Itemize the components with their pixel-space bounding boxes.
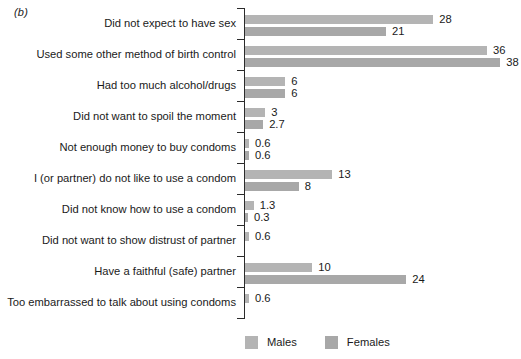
bar-value-label: 36 bbox=[493, 44, 505, 57]
bar-value-label: 21 bbox=[392, 25, 404, 38]
axis-tick bbox=[237, 225, 245, 226]
category-label: Too embarrassed to talk about using cond… bbox=[0, 296, 236, 309]
legend-item-females: Females bbox=[325, 336, 390, 349]
category-label: Used some other method of birth control bbox=[0, 48, 236, 61]
bar-males bbox=[245, 170, 332, 179]
legend-label-males: Males bbox=[267, 336, 297, 348]
bar-males bbox=[245, 108, 265, 117]
bar-value-label: 28 bbox=[439, 13, 451, 26]
axis-tick bbox=[237, 70, 245, 71]
bar-value-label: 24 bbox=[412, 273, 424, 286]
bar-females bbox=[245, 182, 299, 191]
bar-value-label: 0.6 bbox=[255, 230, 271, 243]
bar-value-label: 0.3 bbox=[254, 211, 270, 224]
legend-label-females: Females bbox=[347, 336, 390, 348]
bar-males bbox=[245, 15, 433, 24]
axis-tick bbox=[237, 132, 245, 133]
category-label: Did not know how to use a condom bbox=[0, 203, 236, 216]
bar-value-label: 6 bbox=[291, 87, 297, 100]
category-label: Did not expect to have sex bbox=[0, 17, 236, 30]
bar-males bbox=[245, 139, 249, 148]
bar-males bbox=[245, 77, 285, 86]
legend: MalesFemales bbox=[245, 334, 418, 350]
bar-value-label: 0.6 bbox=[255, 149, 271, 162]
bar-females bbox=[245, 120, 263, 129]
category-label: Did not want to spoil the moment bbox=[0, 110, 236, 123]
bar-females bbox=[245, 151, 249, 160]
axis-tick bbox=[237, 318, 245, 319]
bar-males bbox=[245, 294, 249, 303]
legend-item-males: Males bbox=[245, 336, 297, 349]
category-label: Did not want to show distrust of partner bbox=[0, 234, 236, 247]
axis-tick bbox=[237, 194, 245, 195]
legend-swatch-females bbox=[325, 336, 338, 349]
axis-tick bbox=[237, 101, 245, 102]
bar-females bbox=[245, 89, 285, 98]
bar-value-label: 10 bbox=[318, 261, 330, 274]
bar-females bbox=[245, 213, 248, 222]
bar-males bbox=[245, 46, 487, 55]
axis-tick bbox=[237, 8, 245, 9]
axis-tick bbox=[237, 256, 245, 257]
bar-value-label: 38 bbox=[506, 56, 518, 69]
chart-figure: (b) Did not expect to have sex2821Used s… bbox=[0, 0, 521, 359]
bar-females bbox=[245, 58, 500, 67]
axis-tick bbox=[237, 39, 245, 40]
legend-swatch-males bbox=[245, 336, 258, 349]
bar-males bbox=[245, 201, 254, 210]
bar-value-label: 2.7 bbox=[269, 118, 285, 131]
category-label: Not enough money to buy condoms bbox=[0, 141, 236, 154]
axis-tick bbox=[237, 163, 245, 164]
bar-females bbox=[245, 275, 406, 284]
bar-males bbox=[245, 232, 249, 241]
category-label: Had too much alcohol/drugs bbox=[0, 79, 236, 92]
category-label: I (or partner) do not like to use a cond… bbox=[0, 172, 236, 185]
axis-tick bbox=[237, 287, 245, 288]
bar-value-label: 13 bbox=[338, 168, 350, 181]
category-label: Have a faithful (safe) partner bbox=[0, 265, 236, 278]
bar-value-label: 8 bbox=[305, 180, 311, 193]
plot-area: Did not expect to have sex2821Used some … bbox=[0, 0, 521, 325]
bar-value-label: 0.6 bbox=[255, 292, 271, 305]
bar-females bbox=[245, 27, 386, 36]
bar-males bbox=[245, 263, 312, 272]
